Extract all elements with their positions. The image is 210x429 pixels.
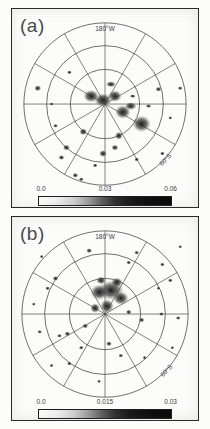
colorbar-b: 0.0 0.015 0.03 [38,398,172,419]
colorbar-a-ticks: 0.0 0.03 0.06 [38,185,172,196]
colorbar-b-ticks: 0.0 0.015 0.03 [38,398,172,409]
colorbar-a-gradient [38,196,172,206]
colorbar-b-tick-min: 0.0 [36,398,45,405]
colorbar-b-gradient [38,409,172,419]
colorbar-a-tick-min: 0.0 [36,185,45,192]
panel-a-label: (a) [20,15,45,37]
polar-plot-a [12,9,198,207]
colorbar-a-tick-mid: 0.03 [99,185,112,192]
colorbar-b-tick-mid: 0.015 [97,398,113,405]
colorbar-a: 0.0 0.03 0.06 [38,185,172,206]
figure-root: (a) 180°W 60°S 0.0 0.03 0.06 [0,0,210,429]
panel-a: (a) 180°W 60°S 0.0 0.03 0.06 [11,8,199,208]
meridian-label-a: 180°W [95,25,115,32]
panel-b: (b) 180°W 60°S 0.0 0.015 0.03 [11,216,199,421]
polar-plot-b-svg [12,217,198,420]
colorbar-b-tick-max: 0.03 [164,398,177,405]
colorbar-a-tick-max: 0.06 [164,185,177,192]
polar-plot-a-svg [12,9,198,207]
meridian-label-b: 180°W [95,233,115,240]
polar-plot-b [12,217,198,420]
panel-b-label: (b) [20,223,45,245]
